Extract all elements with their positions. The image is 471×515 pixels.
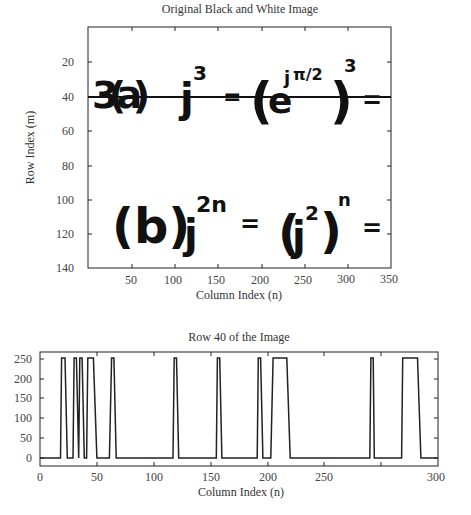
svg-text:3: 3 [344, 55, 357, 76]
svg-text:=: = [240, 210, 260, 238]
x-tick: 300 [427, 470, 445, 485]
y-tick: 80 [62, 159, 74, 174]
x-tick: 50 [91, 470, 103, 485]
y-tick: 100 [14, 411, 32, 426]
svg-text:j: j [182, 211, 198, 257]
x-tick: 100 [164, 273, 182, 288]
bottom-x-label-text: Column Index (n) [198, 485, 284, 499]
y-tick: 150 [14, 391, 32, 406]
top-y-axis-label: Row Index (m) [23, 111, 38, 184]
svg-text:=: = [362, 214, 382, 242]
x-tick: 250 [294, 273, 312, 288]
x-tick: 250 [315, 470, 333, 485]
svg-text:2: 2 [305, 201, 319, 225]
svg-text:(b): (b) [112, 198, 190, 254]
svg-text:): ) [330, 72, 353, 130]
top-y-label-text: Row Index (m) [23, 111, 37, 184]
charts-canvas: 3(a) j 3 = ( e j π/2 ) 3 = (b) j 2n = ( … [0, 0, 471, 515]
x-tick: 150 [207, 273, 225, 288]
y-tick: 140 [56, 261, 74, 276]
y-tick: 100 [56, 193, 74, 208]
svg-text:j: j [290, 213, 306, 259]
y-tick: 120 [56, 227, 74, 242]
svg-text:n: n [338, 189, 351, 210]
svg-text:π/2: π/2 [293, 65, 323, 84]
x-tick: 150 [202, 470, 220, 485]
x-tick: 50 [125, 273, 137, 288]
x-tick: 100 [145, 470, 163, 485]
top-x-label-text: Column Index (n) [196, 288, 282, 302]
y-tick: 40 [62, 90, 74, 105]
y-tick: 60 [62, 124, 74, 139]
svg-text:2n: 2n [196, 192, 227, 217]
svg-text:3: 3 [193, 61, 207, 85]
x-tick: 350 [380, 272, 398, 287]
svg-text:=: = [362, 86, 382, 114]
bottom-x-axis-label: Column Index (n) [198, 485, 284, 500]
svg-text:3(a): 3(a) [92, 73, 150, 117]
y-tick: 20 [62, 55, 74, 70]
y-tick: 50 [20, 431, 32, 446]
y-tick: 0 [26, 451, 32, 466]
x-tick: 300 [337, 272, 355, 287]
x-tick: 200 [259, 470, 277, 485]
top-x-axis-label: Column Index (n) [196, 288, 282, 303]
x-tick: 200 [251, 273, 269, 288]
svg-text:): ) [320, 203, 342, 259]
bottom-chart-title: Row 40 of the Image [40, 330, 438, 345]
svg-text:j: j [283, 67, 290, 88]
bottom-plot-frame [40, 352, 438, 466]
x-tick: 0 [37, 470, 43, 485]
y-tick: 250 [14, 352, 32, 367]
y-tick: 200 [14, 372, 32, 387]
